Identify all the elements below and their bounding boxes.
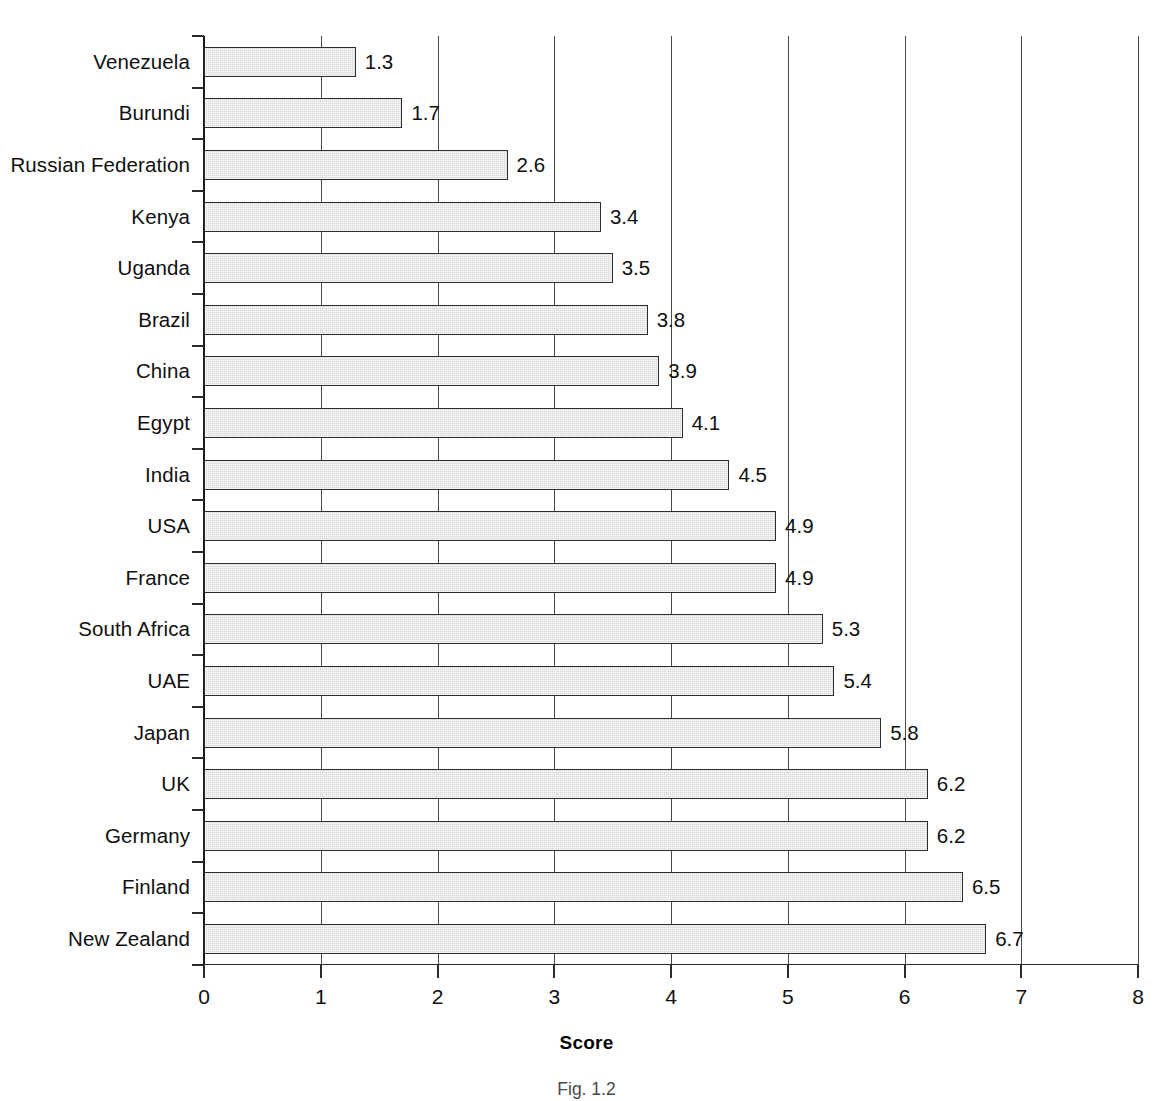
category-label-egypt: Egypt [137,411,190,435]
x-axis-tick-label-1: 1 [315,985,327,1009]
bar-value-label: 6.5 [972,875,1001,899]
x-axis-tick-label-7: 7 [1015,985,1027,1009]
bar-row: Uganda3.5 [0,242,1173,294]
category-label-uae: UAE [148,669,190,693]
x-axis-tick-label-4: 4 [665,985,677,1009]
figure-bar-chart: Venezuela1.3Burundi1.7Russian Federation… [0,0,1173,1101]
bar-value-label: 3.8 [657,308,686,332]
bar [204,821,928,851]
category-label-uganda: Uganda [118,256,190,280]
bar-row: South Africa5.3 [0,604,1173,656]
bar-value-label: 5.3 [832,617,861,641]
x-axis-tick-label-5: 5 [782,985,794,1009]
bar [204,408,683,438]
figure-caption-clip: Fig. 1.2 [0,1082,1173,1101]
bar-value-label: 4.9 [785,514,814,538]
x-axis-tick-6 [904,965,906,978]
bar-value-label: 3.9 [668,359,697,383]
bar-value-label: 3.4 [610,205,639,229]
category-label-venezuela: Venezuela [93,50,190,74]
x-axis-tick-label-8: 8 [1132,985,1144,1009]
bar [204,98,402,128]
category-label-usa: USA [148,514,190,538]
x-axis-tick-label-0: 0 [198,985,210,1009]
x-axis-tick-4 [670,965,672,978]
bar-row: China3.9 [0,346,1173,398]
category-label-brazil: Brazil [138,308,190,332]
x-axis-tick-3 [553,965,555,978]
bar-row: Russian Federation2.6 [0,139,1173,191]
bar-value-label: 6.2 [937,772,966,796]
bar-row: UK6.2 [0,758,1173,810]
bar [204,614,823,644]
x-axis-tick-8 [1137,965,1139,978]
bar [204,924,986,954]
bar-value-label: 2.6 [517,153,546,177]
x-axis-tick-5 [787,965,789,978]
x-axis-tick-1 [320,965,322,978]
bar [204,872,963,902]
x-axis-title: Score [0,1032,1173,1054]
bar-row: Japan5.8 [0,707,1173,759]
bar [204,202,601,232]
category-label-south-africa: South Africa [78,617,190,641]
bar-row: UAE5.4 [0,655,1173,707]
bar [204,150,508,180]
bar-row: Germany6.2 [0,810,1173,862]
bar [204,563,776,593]
bar-value-label: 3.5 [622,256,651,280]
bar-row: Burundi1.7 [0,88,1173,140]
bar [204,305,648,335]
bar-value-label: 1.7 [411,101,440,125]
bar [204,666,834,696]
category-label-uk: UK [161,772,190,796]
category-label-finland: Finland [122,875,190,899]
bar-value-label: 1.3 [365,50,394,74]
bar-row: Finland6.5 [0,862,1173,914]
bar [204,356,659,386]
bar [204,253,613,283]
category-label-new-zealand: New Zealand [68,927,190,951]
bar [204,769,928,799]
x-axis-tick-2 [437,965,439,978]
bar-row: USA4.9 [0,500,1173,552]
category-label-russian-federation: Russian Federation [10,153,190,177]
x-axis-tick-0 [203,965,205,978]
x-axis-tick-label-2: 2 [432,985,444,1009]
category-label-japan: Japan [134,721,190,745]
plot-area: Venezuela1.3Burundi1.7Russian Federation… [0,0,1173,1010]
bar-row: Egypt4.1 [0,397,1173,449]
bar [204,47,356,77]
x-axis-tick-label-3: 3 [548,985,560,1009]
category-label-india: India [145,463,190,487]
bar-value-label: 5.8 [890,721,919,745]
bar-value-label: 4.5 [738,463,767,487]
bar-row: Kenya3.4 [0,191,1173,243]
bar-row: India4.5 [0,449,1173,501]
bar-value-label: 4.9 [785,566,814,590]
bar-row: New Zealand6.7 [0,913,1173,965]
category-label-france: France [126,566,190,590]
bar [204,718,881,748]
category-label-germany: Germany [105,824,190,848]
bar [204,460,729,490]
bar-value-label: 4.1 [692,411,721,435]
figure-caption: Fig. 1.2 [0,1082,1173,1100]
bar-row: Venezuela1.3 [0,36,1173,88]
category-label-china: China [136,359,190,383]
bar [204,511,776,541]
bar-value-label: 5.4 [843,669,872,693]
x-axis-tick-label-6: 6 [899,985,911,1009]
bar-row: France4.9 [0,552,1173,604]
bar-row: Brazil3.8 [0,294,1173,346]
category-label-kenya: Kenya [131,205,190,229]
category-label-burundi: Burundi [119,101,190,125]
x-axis-tick-7 [1020,965,1022,978]
bar-value-label: 6.7 [995,927,1024,951]
bar-value-label: 6.2 [937,824,966,848]
